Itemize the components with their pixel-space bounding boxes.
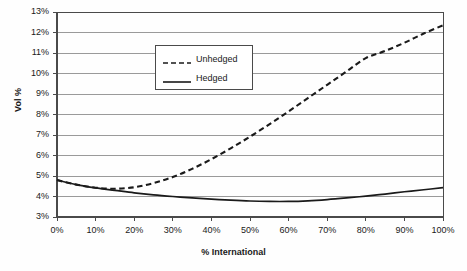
legend-item-unhedged: Unhedged [156, 52, 254, 66]
y-tick-label: 7% [9, 130, 49, 139]
y-tick-label: 4% [9, 192, 49, 201]
legend-label-unhedged: Unhedged [196, 54, 238, 64]
y-tick-label: 5% [9, 171, 49, 180]
y-tick-label: 11% [9, 48, 49, 57]
legend-swatch-dashed-icon [162, 54, 192, 64]
y-tick-label: 6% [9, 151, 49, 160]
chart-container: 3%4%5%6%7%8%9%10%11%12%13% 0%10%20%30%40… [0, 0, 467, 271]
x-axis-title: % International [0, 247, 467, 257]
chart-legend: Unhedged Hedged [155, 45, 253, 90]
y-tick-label: 12% [9, 28, 49, 37]
legend-swatch-solid-icon [162, 73, 192, 83]
x-tick-label: 100% [420, 226, 466, 235]
y-tick-label: 3% [9, 212, 49, 221]
y-axis-title: Vol % [13, 70, 23, 130]
series-line-hedged [57, 180, 443, 201]
legend-label-hedged: Hedged [196, 73, 228, 83]
y-tick-label: 13% [9, 7, 49, 16]
legend-item-hedged: Hedged [156, 71, 254, 85]
